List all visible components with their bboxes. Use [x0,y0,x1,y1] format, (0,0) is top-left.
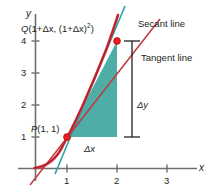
y-axis-label: y [26,9,31,19]
point-q-label: Q(1+Δx, (1+Δx)2) [21,24,94,34]
point-q-marker [114,38,121,45]
point-p-marker [64,134,71,141]
y-tick-label-2: 2 [21,100,26,110]
point-q-coord-y-base: (1+Δx) [59,23,87,34]
delta-y-bracket [124,41,140,137]
x-tick-label-3: 3 [164,176,169,186]
point-p-label: P(1, 1) [31,124,60,134]
x-tick-label-1: 1 [64,176,69,186]
legend-tangent-line-label: Tangent line [141,53,192,63]
delta-x-label: Δx [84,144,95,154]
figure-canvas: y x 1 2 3 4 1 2 3 Q(1+Δx, (1+Δx)2) P(1, … [0,0,213,195]
y-tick-label-4: 4 [21,36,26,46]
delta-y-label: Δy [137,100,148,110]
legend-secant-line-label: Secant line [138,19,185,29]
point-q-paren-close: ) [91,23,94,34]
x-axis-label: x [199,163,204,173]
y-tick-label-1: 1 [21,132,26,142]
point-p-coords: (1, 1) [37,123,59,134]
point-q-coord-x: 1+Δx [32,23,54,34]
y-tick-label-3: 3 [21,68,26,78]
x-tick-label-2: 2 [114,176,119,186]
